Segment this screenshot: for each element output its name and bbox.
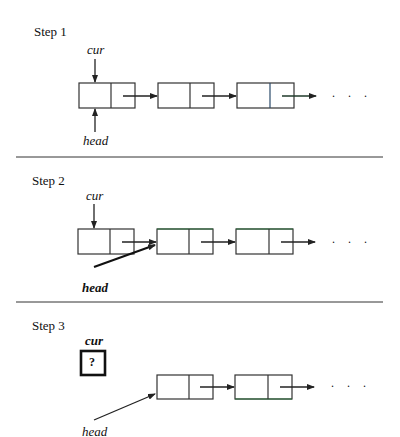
head-pointer-arrow bbox=[94, 245, 155, 267]
diagram-graphics bbox=[0, 0, 400, 437]
head-label: head bbox=[83, 133, 108, 149]
cur-label: cur bbox=[86, 188, 103, 204]
step-3-diagram bbox=[81, 351, 314, 420]
step-1-diagram bbox=[79, 59, 316, 132]
head-label: head bbox=[82, 424, 107, 437]
linked-list-deletion-diagram: Step 1 cur head . . . Step 2 cur head . … bbox=[0, 0, 400, 437]
unknown-value: ? bbox=[89, 355, 95, 370]
step-3-title: Step 3 bbox=[32, 318, 65, 334]
cur-label: cur bbox=[85, 333, 103, 349]
list-continuation-ellipsis: . . . bbox=[332, 86, 372, 101]
step-2-diagram bbox=[78, 204, 315, 267]
step-2-title: Step 2 bbox=[32, 173, 65, 189]
head-pointer-arrow bbox=[94, 394, 155, 420]
head-label: head bbox=[82, 280, 108, 296]
cur-label: cur bbox=[87, 42, 104, 58]
list-continuation-ellipsis: . . . bbox=[332, 232, 372, 247]
step-1-title: Step 1 bbox=[34, 24, 67, 40]
list-continuation-ellipsis: . . . bbox=[331, 376, 371, 391]
